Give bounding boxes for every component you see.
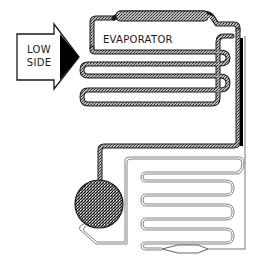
low-side-label-line1: LOW xyxy=(22,44,56,56)
low-side-label-line2: SIDE xyxy=(22,57,56,69)
capillary-tube xyxy=(240,36,245,246)
compressor xyxy=(75,180,123,228)
evaporator-label: EVAPORATOR xyxy=(103,34,173,45)
